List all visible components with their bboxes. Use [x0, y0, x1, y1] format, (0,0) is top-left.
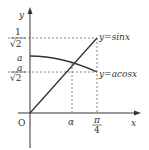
origin-label: O: [18, 118, 25, 128]
tick-root2-b: √2: [10, 73, 21, 83]
tick-a: a: [17, 53, 22, 63]
sin-curve-label: y=sinx: [98, 32, 130, 42]
tick-pi: π: [93, 115, 101, 125]
y-axis-label: y: [18, 10, 25, 20]
y-axis-arrow-icon: [28, 7, 33, 14]
tick-a-num: a: [17, 63, 22, 73]
cos-curve-label: y=acosx: [98, 69, 137, 79]
tick-four: 4: [94, 125, 100, 135]
sin-curve: [30, 38, 97, 113]
graph: y x O 1 √2 a a √2 α π 4 y=sinx y=acosx: [0, 0, 149, 150]
x-axis-arrow-icon: [134, 111, 141, 116]
tick-alpha: α: [68, 117, 74, 127]
tick-one: 1: [15, 27, 21, 37]
cos-curve: [30, 56, 97, 72]
tick-root2: √2: [10, 39, 21, 49]
x-axis-label: x: [131, 118, 136, 128]
